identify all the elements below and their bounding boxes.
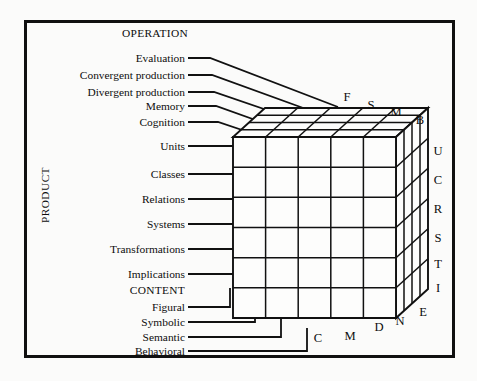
leader-figural — [188, 288, 230, 307]
product-code-u: U — [433, 144, 442, 158]
product-item-implications: Implications — [128, 268, 186, 280]
figure-canvas: OPERATION Evaluation Convergent producti… — [0, 0, 477, 381]
product-leader-lines — [188, 146, 233, 274]
product-item-transformations: Transformations — [110, 243, 185, 255]
operation-code-d: D — [374, 320, 383, 334]
leader-behavioral — [188, 328, 307, 351]
content-item-figural: Figural — [152, 301, 185, 313]
product-code-r: R — [434, 202, 443, 216]
product-code-i: I — [436, 281, 440, 295]
content-code-m: M — [390, 105, 401, 119]
content-item-semantic: Semantic — [143, 331, 185, 343]
operation-header: OPERATION — [122, 27, 188, 39]
operation-item-evaluation: Evaluation — [136, 52, 186, 64]
operation-code-c: C — [314, 331, 322, 345]
leader-evaluation — [188, 58, 338, 107]
operation-code-n: N — [395, 314, 404, 328]
content-code-f: F — [343, 90, 350, 104]
operation-item-convergent-production: Convergent production — [80, 69, 185, 81]
operation-item-cognition: Cognition — [139, 116, 185, 128]
product-item-units: Units — [160, 140, 185, 152]
content-item-behavioral: Behavioral — [135, 345, 185, 357]
product-item-relations: Relations — [142, 193, 186, 205]
operation-item-memory: Memory — [146, 100, 186, 112]
product-item-classes: Classes — [151, 168, 186, 180]
product-axis-label: PRODUCT — [39, 167, 51, 223]
structure-of-intellect-figure: OPERATION Evaluation Convergent producti… — [0, 0, 477, 381]
content-code-b: B — [416, 113, 424, 127]
operation-code-e: E — [419, 305, 427, 319]
product-code-c: C — [434, 173, 442, 187]
operation-item-divergent-production: Divergent production — [87, 86, 185, 98]
content-item-symbolic: Symbolic — [141, 316, 185, 328]
cube — [233, 108, 428, 318]
content-header: CONTENT — [130, 284, 185, 296]
product-code-t: T — [434, 257, 442, 271]
operation-code-m: M — [344, 329, 355, 343]
content-code-s: S — [367, 98, 374, 112]
product-item-systems: Systems — [147, 218, 186, 230]
product-code-s: S — [434, 231, 441, 245]
